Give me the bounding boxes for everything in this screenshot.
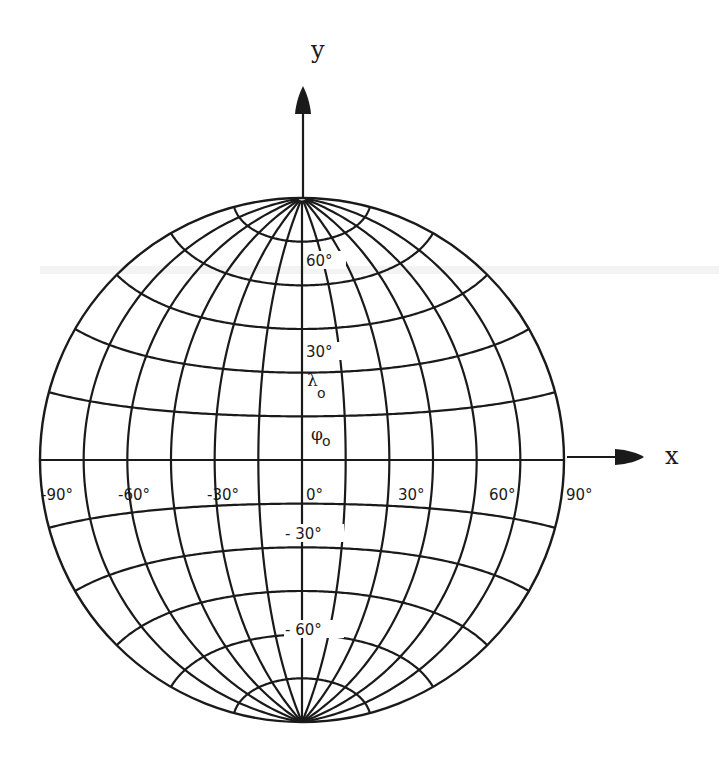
longitude-labels: -90° -60° -30° 0° 30° 60° 90° <box>41 486 593 504</box>
y-axis: y <box>295 36 325 197</box>
lat-label-neg60: - 60° <box>285 621 322 639</box>
lon-label-30: 30° <box>398 486 425 504</box>
lambda-origin-subscript: o <box>317 385 326 401</box>
y-axis-arrowhead-icon <box>295 86 311 114</box>
lat-label-neg30: - 30° <box>285 525 322 543</box>
meridian-line <box>302 201 346 722</box>
graticule <box>40 199 564 722</box>
origin-labels: λ o φ o <box>307 370 331 449</box>
x-axis-arrowhead-icon <box>615 449 644 465</box>
lon-label-60: 60° <box>489 486 516 504</box>
projection-diagram: y x -90° -60° -30° 0° 30° 60° 90° 60° 30… <box>0 0 719 766</box>
lon-label-neg60: -60° <box>118 486 150 504</box>
x-axis-label: x <box>665 442 679 470</box>
meridian-line <box>258 201 302 722</box>
lon-label-neg90: -90° <box>41 486 73 504</box>
lon-label-90: 90° <box>566 486 593 504</box>
phi-origin-subscript: o <box>322 433 331 449</box>
lon-label-0: 0° <box>306 486 323 504</box>
latitude-labels: 60° 30° - 30° - 60° <box>284 251 346 639</box>
lon-label-neg30: -30° <box>207 486 239 504</box>
lat-label-30: 30° <box>306 343 333 361</box>
x-axis: x <box>567 442 679 470</box>
y-axis-label: y <box>310 36 325 64</box>
lat-label-60: 60° <box>306 252 333 270</box>
